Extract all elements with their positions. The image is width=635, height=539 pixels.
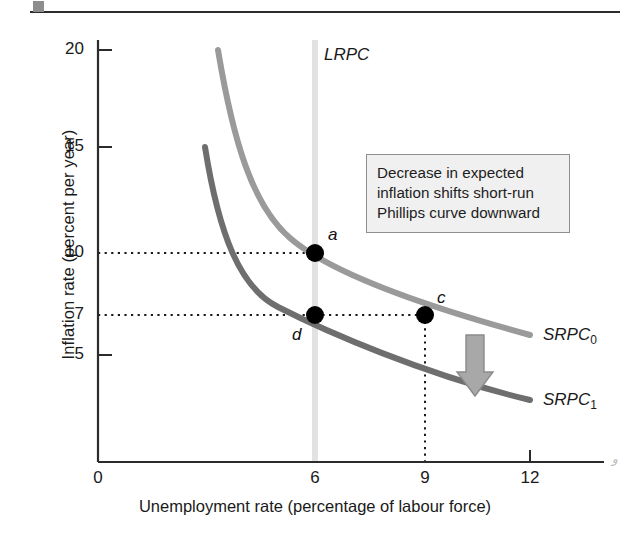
corner-mark: و: [612, 452, 618, 466]
phillips-curve-figure: Inflation rate (percent per year) Unempl…: [0, 0, 635, 539]
point-a-marker: [306, 244, 324, 262]
point-a-label: a: [328, 225, 337, 245]
srpc1-label-text: SRPC: [543, 390, 590, 409]
x-tick-label-9: 9: [405, 468, 445, 488]
y-tick-label-20: 20: [44, 39, 84, 59]
srpc1-label: SRPC1: [543, 390, 597, 412]
point-c-label: c: [437, 288, 446, 308]
x-tick-label-6: 6: [295, 468, 335, 488]
point-d-marker: [306, 306, 324, 324]
chart-canvas: [0, 0, 635, 539]
srpc0-label-text: SRPC: [543, 325, 590, 344]
callout-box: Decrease in expected inflation shifts sh…: [366, 154, 570, 233]
y-tick-label-7: 7: [44, 304, 84, 324]
srpc0-label-subscript: 0: [590, 333, 597, 347]
y-tick-label-15: 15: [44, 136, 84, 156]
y-tick-label-5: 5: [44, 344, 84, 364]
point-c-marker: [416, 306, 434, 324]
callout-line-3: Phillips curve downward: [377, 203, 560, 223]
lrpc-label: LRPC: [324, 45, 369, 65]
callout-line-1: Decrease in expected: [377, 163, 560, 183]
x-axis-title: Unemployment rate (percentage of labour …: [98, 497, 532, 516]
y-tick-label-10: 10: [44, 242, 84, 262]
x-tick-label-12: 12: [510, 468, 550, 488]
x-tick-label-0: 0: [78, 468, 118, 488]
srpc1-label-subscript: 1: [590, 398, 597, 412]
srpc0-label: SRPC0: [543, 325, 597, 347]
point-d-label: d: [292, 325, 301, 345]
callout-line-2: inflation shifts short-run: [377, 183, 560, 203]
